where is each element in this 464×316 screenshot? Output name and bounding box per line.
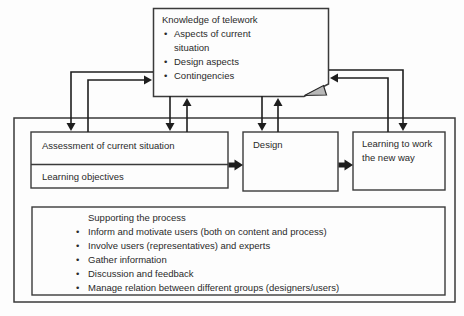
knowledge-bullet: Aspects of current situation	[162, 27, 274, 55]
supporting-bullet: Discussion and feedback	[75, 267, 440, 281]
supporting-box-content: Supporting the process Inform and motiva…	[75, 211, 440, 295]
knowledge-box-content: Knowledge of telework Aspects of current…	[162, 13, 312, 83]
design-label: Design	[253, 138, 333, 152]
supporting-box-title: Supporting the process	[75, 211, 440, 225]
supporting-bullet-list: Inform and motivate users (both on conte…	[75, 225, 440, 295]
learning-objectives-label: Learning objectives	[42, 170, 222, 184]
learning-label: Learning to work the new way	[362, 137, 434, 165]
knowledge-bullet: Design aspects	[162, 55, 274, 69]
supporting-bullet: Manage relation between different groups…	[75, 281, 440, 295]
knowledge-box-title: Knowledge of telework	[162, 13, 312, 27]
supporting-bullet: Gather information	[75, 253, 440, 267]
knowledge-bullet-list: Aspects of current situation Design aspe…	[162, 27, 274, 83]
knowledge-bullet: Contingencies	[162, 69, 274, 83]
supporting-bullet: Inform and motivate users (both on conte…	[75, 225, 440, 239]
telework-process-diagram: Knowledge of telework Aspects of current…	[0, 0, 464, 316]
assessment-label: Assessment of current situation	[42, 139, 222, 153]
supporting-bullet: Involve users (representatives) and expe…	[75, 239, 440, 253]
